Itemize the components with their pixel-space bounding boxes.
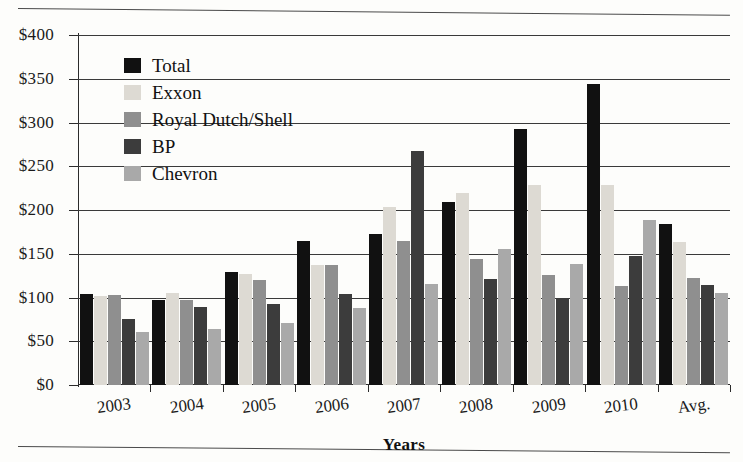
bar xyxy=(225,272,238,385)
bar xyxy=(643,220,656,385)
bar xyxy=(194,307,207,385)
legend-swatch-icon xyxy=(124,58,141,73)
bar xyxy=(542,275,555,385)
bar-group xyxy=(368,35,440,385)
bar xyxy=(397,241,410,385)
bar xyxy=(94,296,107,385)
x-axis-tick-label: Avg. xyxy=(656,393,732,420)
y-axis-tick-label: $300 xyxy=(0,114,54,131)
x-axis-tick-label: 2004 xyxy=(149,393,225,420)
legend-swatch-icon xyxy=(124,85,141,100)
bar xyxy=(673,242,686,386)
y-axis-tick xyxy=(69,35,78,36)
bar xyxy=(152,300,165,385)
bar xyxy=(353,308,366,385)
bar xyxy=(556,298,569,386)
y-axis-tick xyxy=(69,210,78,211)
bar xyxy=(687,278,700,385)
bar xyxy=(498,249,511,385)
x-axis-tick xyxy=(440,385,441,392)
legend-swatch-icon xyxy=(124,139,141,154)
bar xyxy=(108,295,121,385)
y-axis-tick-label: $0 xyxy=(0,376,54,393)
legend-item-label: Chevron xyxy=(152,164,217,183)
y-axis-tick xyxy=(69,254,78,255)
x-axis-tick xyxy=(585,385,586,392)
bar-group xyxy=(658,35,730,385)
bar xyxy=(281,323,294,385)
x-axis-tick xyxy=(368,385,369,392)
legend-item-label: Exxon xyxy=(152,83,202,102)
chart-legend: TotalExxonRoyal Dutch/ShellBPChevron xyxy=(124,52,293,187)
bar xyxy=(239,274,252,385)
y-axis-tick-label: $350 xyxy=(0,70,54,87)
x-axis-tick xyxy=(730,385,731,392)
x-axis-tick-label: 2009 xyxy=(511,393,587,420)
y-axis-tick-label: $100 xyxy=(0,289,54,306)
y-axis-tick xyxy=(69,298,78,299)
y-axis-tick xyxy=(69,385,78,386)
y-axis-tick-label: $400 xyxy=(0,26,54,43)
bar-group xyxy=(440,35,512,385)
bar-group xyxy=(513,35,585,385)
bar xyxy=(570,264,583,385)
bar xyxy=(325,265,338,385)
bar xyxy=(80,294,93,385)
bar xyxy=(208,329,221,385)
legend-item: Royal Dutch/Shell xyxy=(124,106,293,133)
bar xyxy=(587,84,600,385)
bar xyxy=(136,332,149,385)
bar xyxy=(484,279,497,385)
bar xyxy=(253,280,266,385)
bar xyxy=(715,293,728,385)
legend-item-label: Royal Dutch/Shell xyxy=(152,110,293,129)
x-axis-tick xyxy=(150,385,151,392)
legend-swatch-icon xyxy=(124,166,141,181)
bar xyxy=(470,259,483,385)
legend-item-label: BP xyxy=(152,137,175,156)
x-axis-tick-label: 2008 xyxy=(439,393,515,420)
y-axis-tick-label: $200 xyxy=(0,201,54,218)
x-axis-title: Years xyxy=(78,435,730,455)
bar xyxy=(369,234,382,385)
x-axis-tick xyxy=(295,385,296,392)
bar xyxy=(659,224,672,385)
x-axis-tick xyxy=(513,385,514,392)
x-axis-tick-label: 2006 xyxy=(294,393,370,420)
bar xyxy=(514,129,527,385)
bar xyxy=(122,319,135,385)
bar xyxy=(311,265,324,385)
bar xyxy=(297,241,310,385)
x-axis-tick xyxy=(658,385,659,392)
bar xyxy=(425,284,438,385)
bar xyxy=(339,294,352,385)
x-axis-tick-label: 2003 xyxy=(76,393,152,420)
legend-item: Total xyxy=(124,52,293,79)
x-axis-tick-label: 2010 xyxy=(584,393,660,420)
x-axis-tick xyxy=(223,385,224,392)
bar xyxy=(701,285,714,385)
bar xyxy=(166,293,179,385)
bar xyxy=(411,151,424,385)
bar xyxy=(456,193,469,386)
bar xyxy=(528,185,541,385)
y-axis-tick xyxy=(69,166,78,167)
legend-item-label: Total xyxy=(152,56,191,75)
bar xyxy=(180,300,193,385)
bar xyxy=(615,286,628,385)
y-axis-tick xyxy=(69,341,78,342)
bar xyxy=(629,256,642,385)
legend-item: Chevron xyxy=(124,160,293,187)
x-axis-tick-label: 2007 xyxy=(366,393,442,420)
bar xyxy=(601,185,614,385)
bar-group xyxy=(295,35,367,385)
bar xyxy=(442,202,455,385)
page-rule-top xyxy=(18,8,730,16)
bar-group xyxy=(585,35,657,385)
legend-item: Exxon xyxy=(124,79,293,106)
y-axis-tick-label: $250 xyxy=(0,157,54,174)
y-axis-tick-label: $50 xyxy=(0,332,54,349)
bar xyxy=(267,304,280,385)
chart-page: $0$50$100$150$200$250$300$350$400 200320… xyxy=(0,0,743,462)
y-axis-tick xyxy=(69,123,78,124)
